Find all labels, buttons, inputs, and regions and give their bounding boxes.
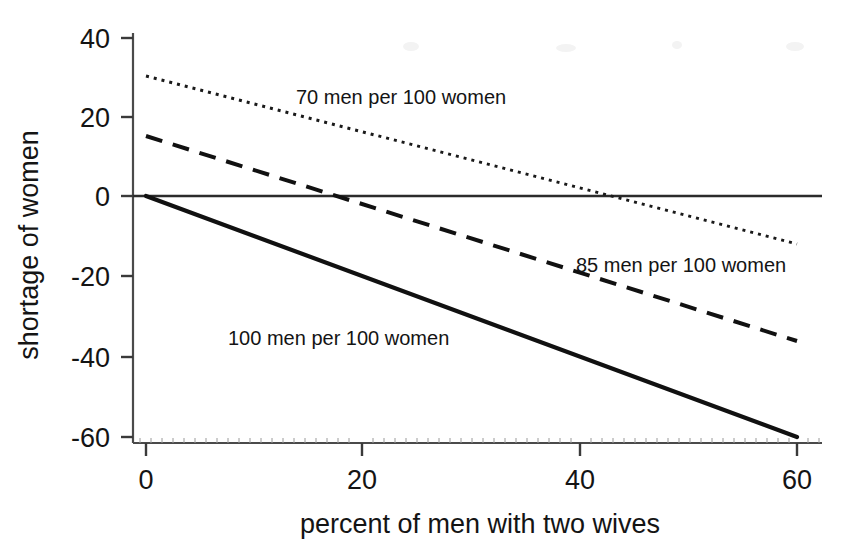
y-tick-marks (121, 38, 133, 437)
y-tick-label-0: 0 (95, 182, 110, 212)
y-tick-label-neg60: -60 (71, 423, 110, 453)
series-line-85-men (146, 136, 797, 341)
series-label-100-men: 100 men per 100 women (228, 327, 449, 349)
y-tick-label-20: 20 (80, 103, 110, 133)
y-tick-label-40: 40 (80, 24, 110, 54)
series-label-70-men: 70 men per 100 women (296, 86, 506, 108)
y-axis-title: shortage of women (14, 130, 44, 360)
x-tick-label-20: 20 (347, 465, 377, 495)
series-line-100-men (146, 196, 797, 437)
y-tick-label-neg20: -20 (71, 262, 110, 292)
x-tick-label-40: 40 (565, 465, 595, 495)
x-axis-title: percent of men with two wives (300, 509, 660, 539)
series-label-85-men: 85 men per 100 women (576, 254, 786, 276)
x-tick-label-0: 0 (138, 465, 153, 495)
chart-figure: 40 20 0 -20 -40 -60 0 20 40 60 shortage … (0, 0, 841, 551)
x-tick-label-60: 60 (782, 465, 812, 495)
y-tick-label-neg40: -40 (71, 343, 110, 373)
x-tick-marks (146, 443, 797, 456)
chart-canvas: 40 20 0 -20 -40 -60 0 20 40 60 shortage … (0, 0, 841, 551)
